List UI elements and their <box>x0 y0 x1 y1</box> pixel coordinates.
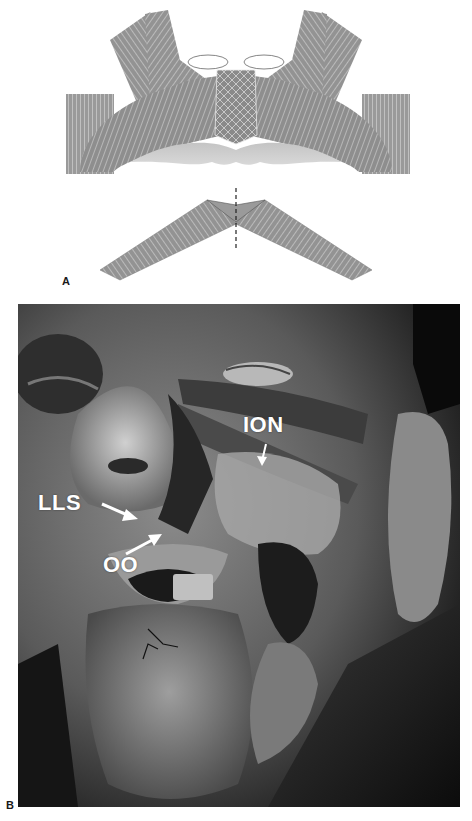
muscle-diagram <box>0 0 472 295</box>
annotation-ion: ION <box>243 414 284 436</box>
panel-b-photo: ION LLS OO <box>18 304 460 807</box>
annotation-oo: OO <box>103 554 138 576</box>
dissection-photo <box>18 304 460 807</box>
left-nostril-outline <box>188 55 228 69</box>
annotation-lls: LLS <box>38 492 81 514</box>
right-nostril-outline <box>244 55 284 69</box>
central-decussating-muscle <box>215 70 257 144</box>
panel-b-label: B <box>6 800 14 811</box>
v-muscle-schematic <box>100 188 372 280</box>
panel-a-illustration <box>0 0 472 295</box>
panel-a-label: A <box>62 276 70 287</box>
